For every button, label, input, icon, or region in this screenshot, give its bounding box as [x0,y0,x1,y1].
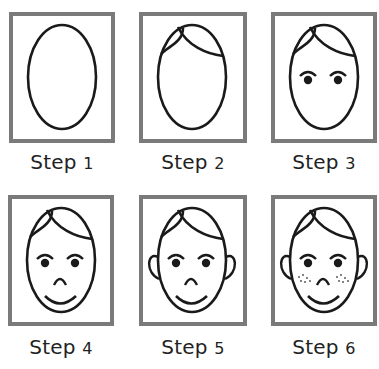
step-5-label: Step 5 [123,335,263,359]
face-drawing-step-3 [275,16,373,139]
face-drawing-step-4 [12,199,110,322]
step-4-label: Step 4 [0,335,131,359]
face-drawing-step-6 [275,199,373,322]
step-2-label: Step 2 [123,150,263,174]
step-6-label: Step 6 [254,335,379,359]
step-6-frame [271,195,377,326]
step-4-frame [8,195,114,326]
step-1-label: Step 1 [0,150,132,174]
step-3-label: Step 3 [254,150,379,174]
face-drawing-step-5 [143,199,243,322]
step-1-frame [9,12,115,143]
step-5-frame [139,195,247,326]
step-3-frame [271,12,377,143]
step-2-frame [139,12,247,143]
face-drawing-step-2 [143,16,243,139]
face-drawing-step-1 [13,16,111,139]
